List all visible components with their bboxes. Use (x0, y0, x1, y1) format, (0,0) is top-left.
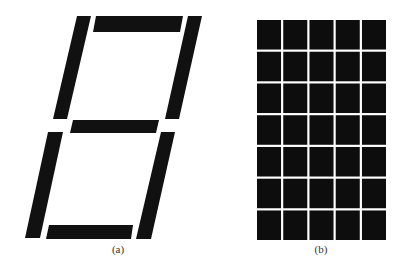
matrix-cell (336, 115, 360, 145)
matrix-cell (257, 83, 281, 113)
segment-top (93, 16, 183, 32)
matrix-cell (309, 147, 333, 177)
matrix-cell (257, 115, 281, 145)
matrix-cell (362, 210, 386, 240)
matrix-cell (283, 210, 307, 240)
matrix-cell (283, 115, 307, 145)
matrix-cell (336, 83, 360, 113)
matrix-cell (257, 147, 281, 177)
matrix-cell (336, 52, 360, 82)
caption-b: (b) (315, 243, 328, 255)
figure-canvas (0, 0, 401, 264)
seven-segment-display (25, 16, 202, 239)
segment-middle (70, 120, 159, 133)
matrix-cell (362, 115, 386, 145)
matrix-cell (283, 147, 307, 177)
segment-lower-left (25, 132, 63, 238)
matrix-cell (336, 20, 360, 50)
segment-upper-left (53, 16, 91, 119)
matrix-cell (283, 20, 307, 50)
matrix-cell (336, 147, 360, 177)
matrix-cell (362, 20, 386, 50)
matrix-cell (309, 20, 333, 50)
matrix-cell (283, 179, 307, 209)
matrix-cell (283, 83, 307, 113)
matrix-cell (362, 52, 386, 82)
dot-matrix-display (257, 20, 386, 240)
matrix-cell (257, 210, 281, 240)
matrix-cell (336, 210, 360, 240)
matrix-cell (362, 179, 386, 209)
segment-bottom (46, 225, 133, 239)
matrix-cell (309, 52, 333, 82)
matrix-cell (362, 147, 386, 177)
matrix-cell (309, 83, 333, 113)
matrix-cell (309, 115, 333, 145)
segment-lower-right (136, 132, 175, 239)
matrix-cell (257, 20, 281, 50)
caption-a: (a) (112, 243, 124, 255)
matrix-cell (309, 179, 333, 209)
matrix-cell (309, 210, 333, 240)
matrix-cell (257, 179, 281, 209)
matrix-cell (257, 52, 281, 82)
matrix-cell (283, 52, 307, 82)
matrix-cell (362, 83, 386, 113)
matrix-cell (336, 179, 360, 209)
